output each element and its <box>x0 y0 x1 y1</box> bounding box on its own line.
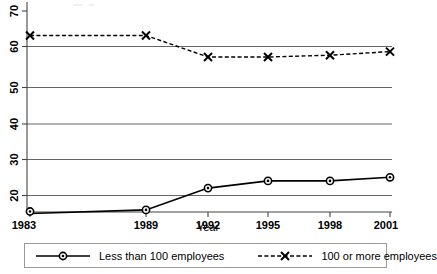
legend-entry-less-than-100: Less than 100 employees <box>34 244 224 267</box>
y-tick-label-20: 20 <box>8 189 20 201</box>
y-tick-label-70: 70 <box>8 5 20 17</box>
marker-x-1989 <box>142 32 150 40</box>
x-tick-label-1989: 1989 <box>134 219 158 231</box>
marker-circle-2001 <box>386 174 393 181</box>
y-tick-label-30: 30 <box>8 153 20 165</box>
marker-circle-1989 <box>142 206 149 213</box>
marker-circle-1995 <box>264 177 271 184</box>
y-tick-label-60: 60 <box>8 40 20 52</box>
x-axis-title: Year <box>197 221 220 232</box>
series-less-than-100-employees <box>26 174 393 215</box>
x-tick-label-1998: 1998 <box>318 219 342 231</box>
line-chart-svg: 70 60 50 40 30 20 1983 1989 1992 1995 19… <box>0 0 401 232</box>
plot-area: 70 60 50 40 30 20 1983 1989 1992 1995 19… <box>0 0 401 232</box>
x-tick-label-2001: 2001 <box>374 219 398 231</box>
legend-swatch-dashed-x <box>256 249 314 263</box>
legend-swatch-solid-circle <box>34 249 92 263</box>
y-tick-label-40: 40 <box>8 118 20 130</box>
y-tick-label-50: 50 <box>8 81 20 93</box>
legend-label-100-or-more: 100 or more employees <box>321 250 437 262</box>
x-tick-label-1983: 1983 <box>12 219 36 231</box>
x-tick-label-1995: 1995 <box>256 219 280 231</box>
marker-circle-1992 <box>204 185 211 192</box>
marker-circle-1998 <box>326 177 333 184</box>
y-axis: 70 60 50 40 30 20 <box>8 2 27 212</box>
gridlines <box>27 11 392 196</box>
legend-entry-100-or-more: 100 or more employees <box>256 244 437 267</box>
chart-legend: Less than 100 employees 100 or more empl… <box>24 243 387 268</box>
marker-circle-1983 <box>26 208 33 215</box>
legend-label-less-than-100: Less than 100 employees <box>99 250 224 262</box>
marker-x-1992 <box>204 53 212 61</box>
